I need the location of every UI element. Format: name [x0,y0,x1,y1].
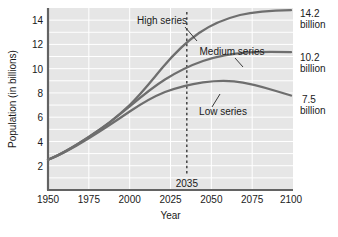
x-tick-2025: 2025 [159,194,182,205]
medium-series-end-unit: billion [300,63,326,74]
medium-series-end-value: 10.2 [300,52,320,63]
x-axis-title: Year [160,210,181,221]
x-tick-2000: 2000 [119,194,142,205]
x-tick-1950: 1950 [37,194,60,205]
y-tick-2: 2 [37,161,43,172]
y-tick-6: 6 [37,112,43,123]
high-series-end-unit: billion [300,19,326,30]
y-axis-tick-labels: 14 12 10 8 6 4 2 [32,15,44,172]
x-tick-2075: 2075 [241,194,264,205]
low-series-end-value: 7.5 [302,94,316,105]
chart-page: 14 12 10 8 6 4 2 1950 1975 2000 2025 205… [0,0,338,237]
low-series-annotation: Low series [199,106,247,117]
x-tick-1975: 1975 [78,194,101,205]
y-tick-4: 4 [37,137,43,148]
x-tick-2100: 2100 [280,194,303,205]
y-tick-10: 10 [32,64,44,75]
population-projection-chart: 14 12 10 8 6 4 2 1950 1975 2000 2025 205… [0,0,338,237]
y-tick-12: 12 [32,39,44,50]
high-series-annotation: High series [137,15,187,26]
low-series-end-unit: billion [300,105,326,116]
high-series-end-value: 14.2 [300,8,320,19]
x-tick-2050: 2050 [200,194,223,205]
x-axis-tick-labels: 1950 1975 2000 2025 2050 2075 2100 [37,194,303,205]
medium-series-annotation: Medium series [199,46,264,57]
endpoint-labels: 14.2 billion 10.2 billion 7.5 billion [300,8,326,116]
y-axis-title: Population (in billions) [7,50,18,148]
y-tick-14: 14 [32,15,44,26]
y-tick-8: 8 [37,88,43,99]
year-marker-label: 2035 [176,178,199,189]
